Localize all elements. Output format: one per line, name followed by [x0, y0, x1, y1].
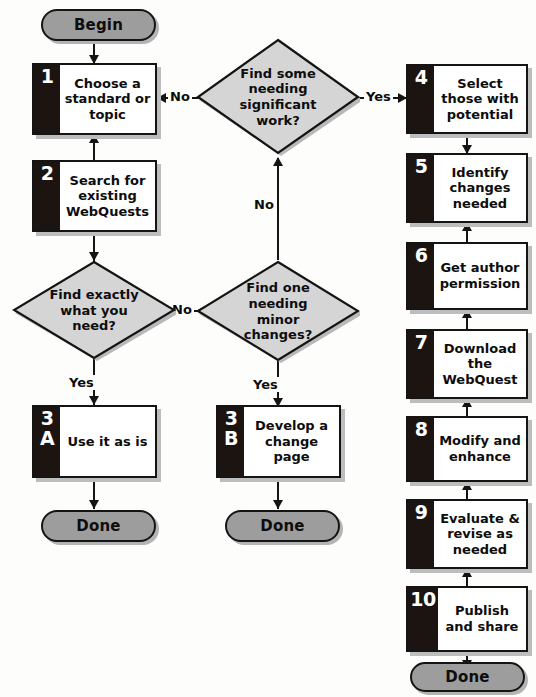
process-step-4-number-tab: 4	[408, 66, 434, 132]
process-step-5-number: 5	[415, 157, 428, 176]
process-step-3b: 3 B Develop a change page	[216, 405, 341, 478]
terminator-done-b: Done	[225, 510, 340, 542]
process-step-4-label: Select those with potential	[434, 66, 526, 132]
process-step-10: 10 Publish and share	[406, 586, 528, 652]
process-step-9-label: Evaluate & revise as needed	[434, 501, 526, 567]
process-step-6: 6 Get author permission	[406, 242, 528, 310]
terminator-done-a: Done	[41, 510, 156, 542]
edge-label-yes-to-step4: Yes	[364, 89, 393, 104]
edge-label-no-to-step1: No	[168, 89, 192, 104]
edge-label-yes-to-3a: Yes	[67, 375, 96, 390]
process-step-9: 9 Evaluate & revise as needed	[406, 499, 528, 569]
process-step-4-number: 4	[415, 68, 428, 87]
process-step-3a-number: 3	[41, 409, 54, 428]
arrowhead-find-some-no-to-step1	[157, 93, 166, 103]
process-step-3a-number-tab: 3 A	[34, 407, 60, 476]
arrowhead-find-one-no-up	[273, 157, 283, 166]
process-step-3b-number-tab: 3 B	[218, 407, 244, 476]
process-step-6-label: Get author permission	[434, 244, 526, 308]
process-step-7-label: Download the WebQuest	[434, 331, 526, 397]
arrowhead-step6-to-step5	[462, 222, 472, 231]
process-step-1-number: 1	[41, 67, 54, 86]
edge-label-no-up: No	[252, 197, 276, 212]
process-step-10-number: 10	[410, 590, 435, 609]
decision-find-exactly: Find exactly what you need?	[12, 258, 176, 363]
flowchart-canvas: Begin 1 Choose a standard or topic 2 Sea…	[0, 0, 536, 697]
decision-find-one-minor-shape	[196, 258, 360, 365]
terminator-begin-label: Begin	[74, 16, 123, 34]
terminator-done-right: Done	[410, 662, 525, 692]
decision-find-exactly-shape	[12, 258, 176, 363]
arrowhead-find-exactly-yes	[89, 396, 99, 405]
process-step-2-number-tab: 2	[34, 162, 60, 230]
process-step-3b-label: Develop a change page	[244, 407, 339, 476]
process-step-3a-label: Use it as is	[60, 407, 155, 476]
process-step-5-label: Identify changes needed	[434, 155, 526, 221]
process-step-3b-number-2: B	[224, 429, 238, 448]
process-step-2-label: Search for existing WebQuests	[60, 162, 155, 230]
terminator-done-right-label: Done	[445, 668, 489, 686]
arrowhead-step3a-to-done	[89, 500, 99, 509]
connector-find-one-no-up	[277, 158, 279, 260]
process-step-3b-number: 3	[225, 409, 238, 428]
process-step-7-number-tab: 7	[408, 331, 434, 397]
process-step-2-number: 2	[41, 164, 54, 183]
process-step-7: 7 Download the WebQuest	[406, 329, 528, 399]
decision-find-some-shape	[196, 36, 360, 158]
arrowhead-step7-to-step6	[462, 309, 472, 318]
process-step-9-number: 9	[415, 503, 428, 522]
process-step-8: 8 Modify and enhance	[406, 416, 528, 482]
arrowhead-step2-to-step1	[89, 134, 99, 143]
process-step-7-number: 7	[415, 333, 428, 352]
process-step-8-number: 8	[415, 420, 428, 439]
arrowhead-step8-to-step7	[462, 398, 472, 407]
process-step-10-label: Publish and share	[438, 588, 526, 650]
process-step-8-number-tab: 8	[408, 418, 434, 480]
process-step-1-number-tab: 1	[34, 65, 60, 133]
edge-label-yes-to-3b: Yes	[251, 377, 280, 392]
process-step-5: 5 Identify changes needed	[406, 153, 528, 223]
arrowhead-step9-to-step8	[462, 481, 472, 490]
terminator-begin: Begin	[41, 9, 156, 41]
arrowhead-step10-to-step9	[462, 568, 472, 577]
arrowhead-step3b-to-done	[273, 500, 283, 509]
decision-find-some: Find some needing significant work?	[196, 36, 360, 158]
process-step-6-number-tab: 6	[408, 244, 434, 308]
process-step-8-label: Modify and enhance	[434, 418, 526, 480]
process-step-10-number-tab: 10	[408, 588, 438, 650]
process-step-3a: 3 A Use it as is	[32, 405, 157, 478]
process-step-9-number-tab: 9	[408, 501, 434, 567]
process-step-1: 1 Choose a standard or topic	[32, 63, 157, 135]
process-step-5-number-tab: 5	[408, 155, 434, 221]
process-step-2: 2 Search for existing WebQuests	[32, 160, 157, 232]
process-step-1-label: Choose a standard or topic	[60, 65, 155, 133]
terminator-done-a-label: Done	[76, 517, 120, 535]
decision-find-one-minor: Find one needing minor changes?	[196, 258, 360, 365]
process-step-3a-number-2: A	[40, 429, 54, 448]
process-step-6-number: 6	[415, 246, 428, 265]
process-step-4: 4 Select those with potential	[406, 64, 528, 134]
terminator-done-b-label: Done	[260, 517, 304, 535]
